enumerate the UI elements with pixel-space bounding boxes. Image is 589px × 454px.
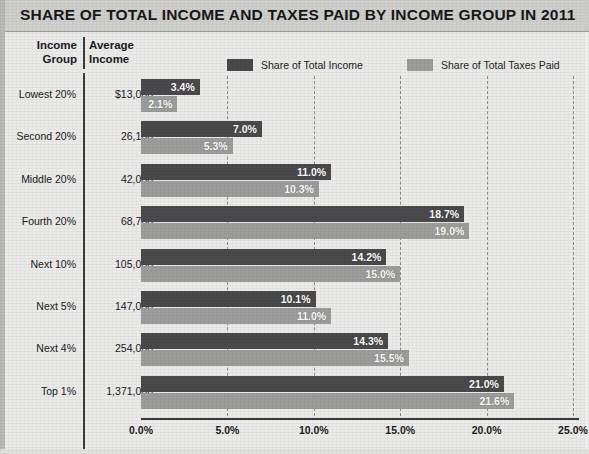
row-label-income-group: Next 4%	[5, 342, 76, 354]
legend-swatch-taxes	[407, 59, 433, 71]
bar-value-label: 10.3%	[284, 183, 314, 195]
page-title: SHARE OF TOTAL INCOME AND TAXES PAID BY …	[20, 6, 575, 24]
row-label-income-group: Fourth 20%	[5, 215, 76, 227]
bar-share-of-total-taxes-paid: 21.6%	[141, 393, 514, 409]
bar-share-of-total-taxes-paid: 5.3%	[141, 138, 233, 154]
bar-value-label: 2.1%	[148, 98, 172, 110]
x-axis-line	[141, 418, 579, 420]
x-axis-tick-20-0: 20.0%	[472, 424, 502, 436]
bar-share-of-total-taxes-paid: 2.1%	[141, 96, 177, 112]
bar-share-of-total-taxes-paid: 10.3%	[141, 181, 319, 197]
column-header-average-income-line1: Average	[89, 39, 159, 53]
frame-right-edge	[585, 0, 589, 454]
column-header-income-group-line1: Income	[5, 39, 77, 53]
bar-value-label: 5.3%	[204, 140, 228, 152]
legend-item-share-of-total-taxes-paid: Share of Total Taxes Paid	[407, 55, 560, 69]
legend-label-income: Share of Total Income	[261, 59, 363, 71]
gridline-25-0	[573, 76, 574, 416]
chart-figure: SHARE OF TOTAL INCOME AND TAXES PAID BY …	[0, 0, 589, 454]
gridline-20-0	[487, 76, 488, 416]
bar-share-of-total-income: 11.0%	[141, 164, 331, 180]
row-label-income-group: Lowest 20%	[5, 88, 76, 100]
bar-value-label: 11.0%	[297, 166, 326, 178]
legend-label-taxes: Share of Total Taxes Paid	[441, 59, 560, 71]
bar-value-label: 21.6%	[479, 395, 509, 407]
bar-value-label: 18.7%	[429, 208, 459, 220]
bar-share-of-total-taxes-paid: 15.0%	[141, 266, 400, 282]
bar-value-label: 15.0%	[365, 268, 395, 280]
column-header-average-income-line2: Income	[89, 53, 159, 67]
legend-item-share-of-total-income: Share of Total Income	[227, 55, 363, 69]
column-header-income-group-line2: Group	[5, 53, 77, 67]
title-bar: SHARE OF TOTAL INCOME AND TAXES PAID BY …	[5, 0, 589, 32]
chart-canvas: Income Group Average Income Share of Tot…	[5, 33, 585, 449]
bar-share-of-total-taxes-paid: 11.0%	[141, 308, 331, 324]
column-divider-rule	[83, 73, 85, 449]
column-header-divider	[83, 37, 85, 69]
bar-share-of-total-income: 18.7%	[141, 206, 464, 222]
row-label-income-group: Top 1%	[5, 385, 76, 397]
x-axis-tick-0-0: 0.0%	[129, 424, 153, 436]
legend-swatch-income	[227, 59, 253, 71]
bar-share-of-total-income: 14.2%	[141, 249, 386, 265]
bar-share-of-total-income: 3.4%	[141, 79, 200, 95]
bar-value-label: 14.3%	[353, 335, 383, 347]
bar-value-label: 11.0%	[297, 310, 326, 322]
bar-value-label: 7.0%	[233, 123, 257, 135]
bar-value-label: 21.0%	[469, 378, 499, 390]
bar-value-label: 14.2%	[352, 251, 382, 263]
bar-share-of-total-taxes-paid: 15.5%	[141, 350, 409, 366]
row-label-income-group: Next 5%	[5, 300, 76, 312]
x-axis-tick-25-0: 25.0%	[558, 424, 588, 436]
x-axis-tick-15-0: 15.0%	[385, 424, 415, 436]
x-axis-tick-5-0: 5.0%	[215, 424, 239, 436]
bar-value-label: 15.5%	[374, 352, 404, 364]
row-label-income-group: Next 10%	[5, 258, 76, 270]
x-axis-tick-10-0: 10.0%	[299, 424, 329, 436]
frame-bottom-edge	[0, 449, 589, 454]
column-header-income-group: Income Group	[5, 39, 77, 66]
row-label-income-group: Second 20%	[5, 130, 76, 142]
row-label-income-group: Middle 20%	[5, 173, 76, 185]
bar-share-of-total-taxes-paid: 19.0%	[141, 223, 469, 239]
column-header-average-income: Average Income	[89, 39, 159, 66]
bar-value-label: 10.1%	[281, 293, 311, 305]
bar-value-label: 3.4%	[171, 81, 195, 93]
bar-share-of-total-income: 21.0%	[141, 376, 504, 392]
bar-share-of-total-income: 7.0%	[141, 121, 262, 137]
bar-share-of-total-income: 14.3%	[141, 333, 388, 349]
bar-value-label: 19.0%	[435, 225, 465, 237]
bar-share-of-total-income: 10.1%	[141, 291, 316, 307]
